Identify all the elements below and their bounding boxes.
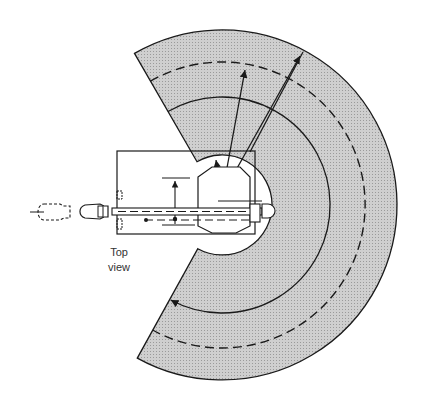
rear-motor (80, 204, 108, 219)
pivot-pin (173, 217, 177, 221)
base-tab-top (117, 191, 122, 199)
robot-body (198, 167, 250, 233)
guide-pin (144, 218, 148, 222)
caption-line-1: Top (96, 245, 142, 260)
gripper-tip (262, 204, 275, 218)
top-view-caption: Top view (96, 245, 142, 275)
gripper-block (250, 204, 260, 222)
caption-line-2: view (96, 260, 142, 275)
base-tab-bottom (117, 219, 122, 229)
robot-workspace-diagram (0, 0, 439, 401)
